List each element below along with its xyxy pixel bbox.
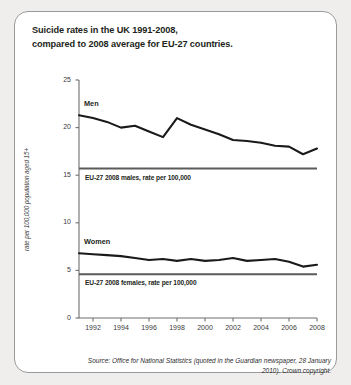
series-line-men <box>79 115 317 154</box>
source-line-1: Source: Office for National Statistics (… <box>88 357 234 364</box>
reference-line-label-eu27-males: EU-27 2008 males, rate per 100,000 <box>85 174 191 181</box>
y-axis-tick-label: 20 <box>47 123 71 130</box>
series-line-women <box>79 253 317 266</box>
x-axis-tick-label: 2008 <box>302 324 332 331</box>
series-label-women: Women <box>84 237 110 246</box>
x-axis-tick-label: 2000 <box>190 324 220 331</box>
chart-plot-area: rate per 100,000 population aged 15+ 051… <box>0 0 351 385</box>
x-axis-tick-label: 1996 <box>134 324 164 331</box>
x-axis-tick-label: 1998 <box>162 324 192 331</box>
series-label-men: Men <box>84 99 99 108</box>
y-axis-tick-label: 0 <box>47 314 71 321</box>
source-line-2: Guardian newspaper, 28 January 2010). Cr… <box>235 357 331 374</box>
x-axis-tick-label: 2004 <box>246 324 276 331</box>
y-axis-tick-label: 25 <box>47 76 71 83</box>
x-axis-tick-label: 2006 <box>274 324 304 331</box>
x-axis-tick-label: 2002 <box>218 324 248 331</box>
y-axis-label: rate per 100,000 population aged 15+ <box>23 130 30 270</box>
y-axis-tick-label: 10 <box>47 218 71 225</box>
x-axis-tick-label: 1992 <box>78 324 108 331</box>
source-note: Source: Office for National Statistics (… <box>86 356 331 375</box>
y-axis-tick-label: 5 <box>47 266 71 273</box>
x-axis-tick-label: 1994 <box>106 324 136 331</box>
y-axis-tick-label: 15 <box>47 171 71 178</box>
reference-line-label-eu27-females: EU-27 2008 females, rate per 100,000 <box>85 279 197 286</box>
